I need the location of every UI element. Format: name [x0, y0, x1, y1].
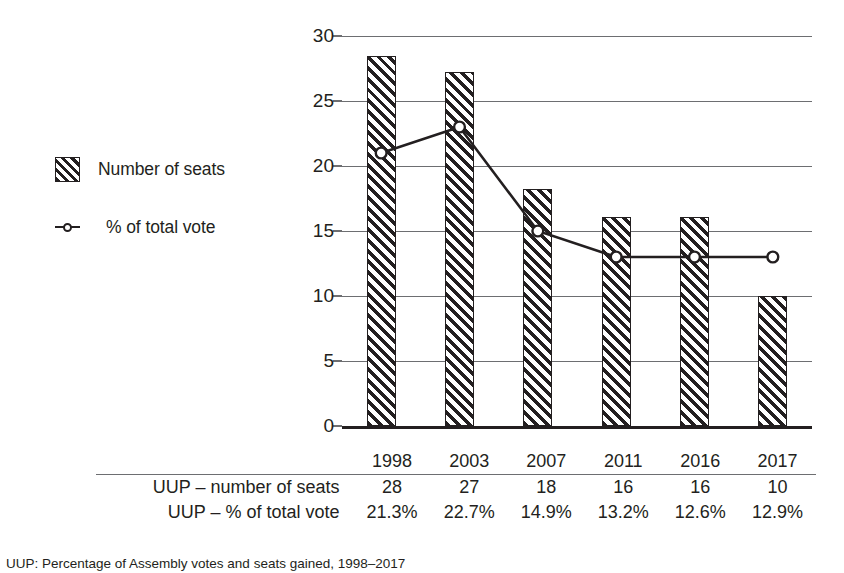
- percent-of-total-vote-line: [342, 36, 812, 426]
- table-header-row: 199820032007201120162017: [96, 446, 816, 475]
- data-point-marker-1998: [376, 148, 387, 159]
- legend-item-number-of-seats: Number of seats: [55, 152, 285, 186]
- table-corner-cell: [96, 446, 354, 475]
- y-tick-label: 20: [313, 155, 334, 177]
- table-cell-2007: 18: [508, 475, 585, 501]
- y-tick-mark: [333, 35, 342, 36]
- table-row: UUP – % of total vote21.3%22.7%14.9%13.2…: [96, 500, 816, 525]
- table-cell-1998: 21.3%: [354, 500, 431, 525]
- y-tick-mark: [333, 165, 342, 166]
- y-tick-label: 5: [323, 350, 334, 372]
- y-tick-label: 0: [323, 415, 334, 437]
- legend-circle-marker: [63, 223, 72, 232]
- table-year-header-2011: 2011: [585, 446, 662, 475]
- table-year-header-1998: 1998: [354, 446, 431, 475]
- data-point-marker-2003: [454, 122, 465, 133]
- hatched-square-swatch-icon: [55, 157, 80, 182]
- legend-label-number-of-seats: Number of seats: [98, 159, 225, 180]
- table-year-header-2016: 2016: [662, 446, 739, 475]
- y-tick-mark: [333, 360, 342, 361]
- table-cell-2003: 22.7%: [431, 500, 508, 525]
- data-table: 199820032007201120162017UUP – number of …: [96, 446, 816, 525]
- table-row-label: UUP – number of seats: [96, 475, 354, 501]
- legend-label-percent-of-total-vote: % of total vote: [106, 217, 215, 238]
- table-cell-2003: 27: [431, 475, 508, 501]
- y-tick-label: 25: [313, 90, 334, 112]
- y-tick-mark: [333, 100, 342, 101]
- table-year-header-2017: 2017: [739, 446, 816, 475]
- y-tick-label: 10: [313, 285, 334, 307]
- x-axis-line: [342, 426, 812, 429]
- chart-page: Number of seats % of total vote 05101520…: [0, 0, 844, 573]
- figure-caption: UUP: Percentage of Assembly votes and se…: [6, 556, 405, 571]
- table-year-header-2003: 2003: [431, 446, 508, 475]
- data-point-marker-2007: [532, 226, 543, 237]
- table-cell-1998: 28: [354, 475, 431, 501]
- y-tick-mark: [333, 295, 342, 296]
- legend-item-percent-of-total-vote: % of total vote: [55, 210, 285, 244]
- data-point-marker-2016: [689, 252, 700, 263]
- data-point-marker-2017: [767, 252, 778, 263]
- table-cell-2011: 16: [585, 475, 662, 501]
- y-tick-label: 30: [313, 25, 334, 47]
- table-row-label: UUP – % of total vote: [96, 500, 354, 525]
- y-tick-mark: [333, 425, 342, 426]
- table-cell-2011: 13.2%: [585, 500, 662, 525]
- chart-line-layer: [342, 36, 812, 426]
- table-cell-2017: 10: [739, 475, 816, 501]
- line-with-circle-marker-icon: [55, 215, 80, 240]
- table-row: UUP – number of seats282718161610: [96, 475, 816, 501]
- data-point-marker-2011: [611, 252, 622, 263]
- y-tick-mark: [333, 230, 342, 231]
- vote-percentage-polyline: [381, 127, 773, 257]
- table-cell-2017: 12.9%: [739, 500, 816, 525]
- chart-plot-area: 051015202530: [296, 24, 816, 444]
- table-cell-2016: 12.6%: [662, 500, 739, 525]
- chart-legend: Number of seats % of total vote: [55, 152, 285, 244]
- table-cell-2007: 14.9%: [508, 500, 585, 525]
- y-tick-label: 15: [313, 220, 334, 242]
- table-cell-2016: 16: [662, 475, 739, 501]
- table-year-header-2007: 2007: [508, 446, 585, 475]
